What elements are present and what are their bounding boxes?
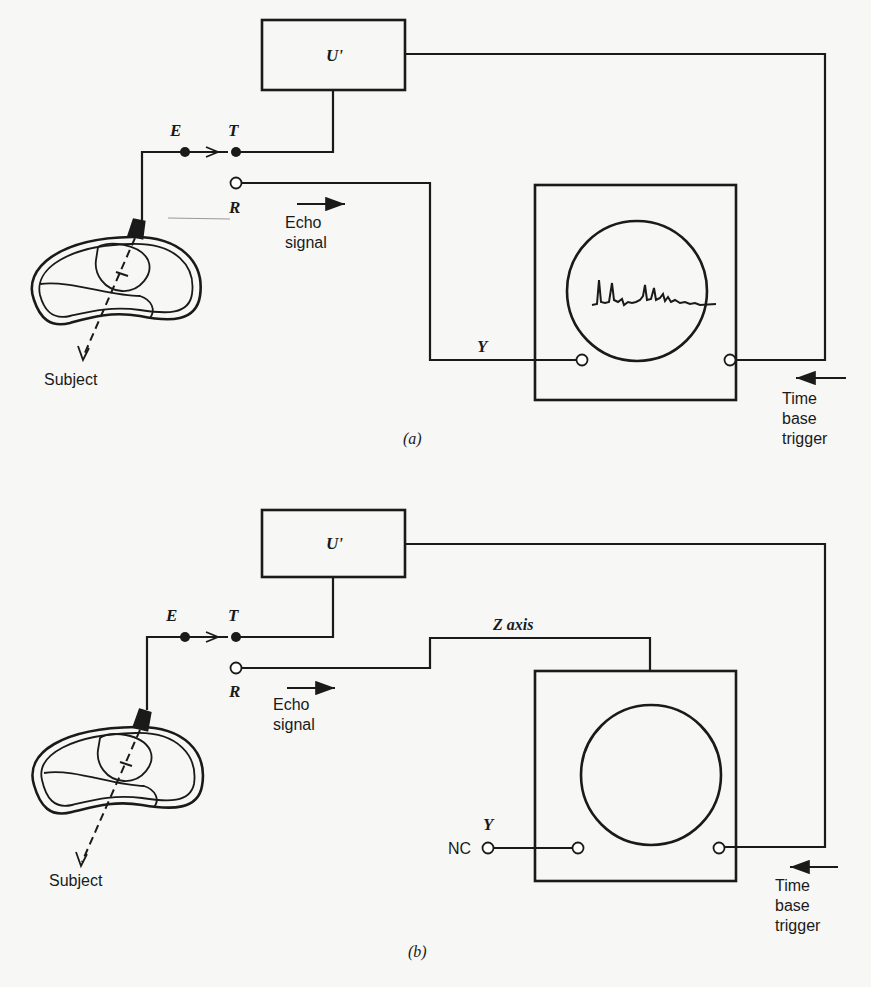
nc-terminal-b xyxy=(483,843,494,854)
echo-label-line2-a: signal xyxy=(285,234,327,251)
z-axis-wire-b xyxy=(242,638,650,671)
trigger-label-line2-b: base xyxy=(775,897,810,914)
ultrasound-diagram: U' E T R Echo signal Y Time base xyxy=(0,0,871,987)
receiver-terminal-b xyxy=(231,663,242,674)
subject-label-b: Subject xyxy=(49,872,103,889)
trigger-label-line2-a: base xyxy=(782,410,817,427)
receiver-terminal-a xyxy=(231,178,242,189)
y-terminal-b xyxy=(573,843,584,854)
echo-label-line1-b: Echo xyxy=(273,696,310,713)
oscilloscope-screen-a xyxy=(567,221,707,361)
transmit-wire-a xyxy=(236,90,333,152)
trigger-label-line3-b: trigger xyxy=(775,917,821,934)
emitter-label-b: E xyxy=(165,606,177,625)
trigger-wire-b xyxy=(405,544,825,847)
transmit-wire-b xyxy=(236,577,333,637)
nc-label-b: NC xyxy=(448,840,471,857)
scan-artifact-line xyxy=(168,218,230,219)
transducer-probe-icon xyxy=(134,710,150,730)
panel-a: U' E T R Echo signal Y Time base xyxy=(32,20,846,448)
emitter-node-a xyxy=(180,147,190,157)
transmitter-label-a: T xyxy=(228,121,239,140)
transducer-probe-icon xyxy=(129,220,144,238)
caption-a: (a) xyxy=(403,430,422,448)
y-terminal-a xyxy=(577,355,588,366)
amplifier-label-b: U' xyxy=(326,534,343,553)
amplifier-label-a: U' xyxy=(326,46,343,65)
subject-cross-section-a xyxy=(32,220,201,360)
oscilloscope-b xyxy=(535,671,736,881)
emitter-label-a: E xyxy=(169,121,181,140)
emitter-node-b xyxy=(180,632,190,642)
trigger-wire-a xyxy=(405,54,825,360)
trigger-terminal-b xyxy=(714,843,725,854)
transmitter-node-a xyxy=(231,147,241,157)
echo-wire-a xyxy=(242,183,577,360)
echo-label-line2-b: signal xyxy=(273,716,315,733)
y-input-label-a: Y xyxy=(477,337,489,356)
trigger-terminal-a xyxy=(725,355,736,366)
panel-b: U' E T R Z axis Echo signal Y NC Time ba… xyxy=(32,510,838,961)
transducer-lead-b xyxy=(147,637,185,710)
z-axis-label-b: Z axis xyxy=(492,616,533,633)
transducer-lead-a xyxy=(142,152,185,222)
transmitter-node-b xyxy=(231,632,241,642)
subject-cross-section-b xyxy=(32,710,202,866)
subject-label-a: Subject xyxy=(44,371,98,388)
y-input-label-b: Y xyxy=(483,815,495,834)
transmitter-label-b: T xyxy=(228,606,239,625)
trigger-label-line1-b: Time xyxy=(775,877,810,894)
receiver-label-b: R xyxy=(228,682,240,701)
receiver-label-a: R xyxy=(228,198,240,217)
oscilloscope-screen-b xyxy=(581,705,721,845)
echo-label-line1-a: Echo xyxy=(285,214,322,231)
trigger-label-line1-a: Time xyxy=(782,390,817,407)
caption-b: (b) xyxy=(408,943,427,961)
trigger-label-line3-a: trigger xyxy=(782,430,828,447)
a-scan-trace xyxy=(592,280,716,305)
